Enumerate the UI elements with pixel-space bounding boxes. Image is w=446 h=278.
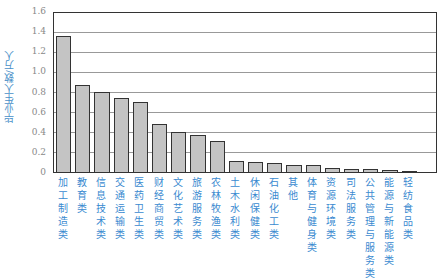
bar: [56, 36, 71, 172]
gridline: [54, 152, 436, 153]
bar: [190, 135, 205, 172]
bar: [171, 132, 186, 172]
y-tick-label: 0.2: [20, 147, 46, 157]
bar-chart: 毕业生人数/万人 00.20.40.60.81.01.21.41.6 加工制造类…: [0, 0, 446, 278]
bar: [286, 165, 301, 172]
bar: [363, 169, 378, 172]
y-tick-label: 1.6: [20, 6, 46, 16]
bar: [248, 162, 263, 172]
category-label: 公共管理与服务类: [363, 176, 377, 278]
y-axis-label: 毕业生人数/万人: [4, 50, 18, 123]
category-label: 轻纺食品类: [401, 176, 415, 241]
category-label: 医药卫生类: [132, 176, 146, 241]
gridline: [54, 52, 436, 53]
gridline: [54, 32, 436, 33]
category-label: 文化艺术类: [171, 176, 185, 241]
gridline: [54, 72, 436, 73]
y-tick-label: 0.4: [20, 127, 46, 137]
bar: [94, 92, 109, 172]
y-tick-label: 0: [20, 167, 46, 177]
y-tick-label: 1.4: [20, 26, 46, 36]
y-tick-label: 1.2: [20, 46, 46, 56]
bar: [382, 170, 397, 172]
gridline: [54, 132, 436, 133]
category-label: 土木水利类: [228, 176, 242, 241]
bar: [114, 98, 129, 172]
category-label: 教育类: [75, 176, 89, 215]
bar: [325, 168, 340, 172]
category-label: 能源与新能源类: [382, 176, 396, 267]
category-label: 交通运输类: [113, 176, 127, 241]
gridline: [54, 112, 436, 113]
category-label: 休闲保健类: [248, 176, 262, 241]
category-label: 体育与健身类: [305, 176, 319, 254]
category-label: 其他: [286, 176, 300, 202]
category-label: 农林牧渔类: [209, 176, 223, 241]
category-label: 旅游服务类: [190, 176, 204, 241]
bar: [267, 163, 282, 172]
bar: [152, 124, 167, 172]
plot-area: [53, 12, 437, 173]
bar: [402, 171, 417, 173]
category-label: 资源环境类: [324, 176, 338, 241]
bar: [133, 102, 148, 172]
category-label: 信息技术类: [94, 176, 108, 241]
bar: [344, 169, 359, 172]
bar: [229, 161, 244, 172]
y-tick-label: 1.0: [20, 66, 46, 76]
y-tick-label: 0.6: [20, 107, 46, 117]
category-label: 司法服务类: [344, 176, 358, 241]
y-tick-label: 0.8: [20, 87, 46, 97]
bar: [75, 85, 90, 172]
category-label: 石油化工类: [267, 176, 281, 241]
category-label: 加工制造类: [56, 176, 70, 241]
category-label: 财经商贸类: [152, 176, 166, 241]
bar: [210, 141, 225, 172]
bar: [306, 165, 321, 172]
gridline: [54, 92, 436, 93]
